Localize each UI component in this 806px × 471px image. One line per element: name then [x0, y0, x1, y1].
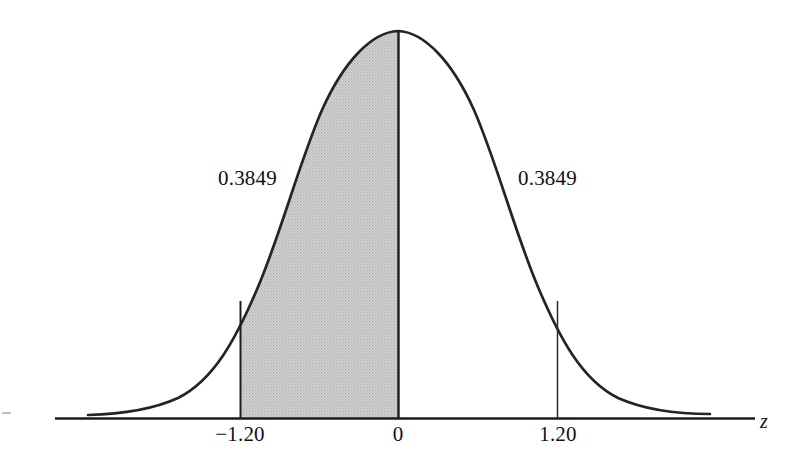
tick-label-center: 0 [393, 424, 404, 445]
tick-label-right: 1.20 [539, 424, 577, 445]
normal-distribution-figure: 0.3849 0.3849 −1.20 0 1.20 z [0, 0, 806, 471]
tick-label-left: −1.20 [215, 424, 265, 445]
right-area-label: 0.3849 [518, 168, 577, 189]
distribution-plot [0, 0, 806, 471]
axis-variable-label: z [760, 411, 768, 431]
left-area-label: 0.3849 [218, 168, 277, 189]
